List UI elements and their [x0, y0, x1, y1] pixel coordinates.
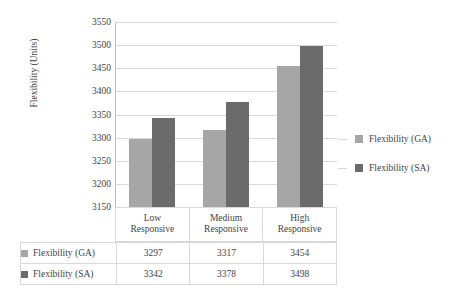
- bar-group: [189, 22, 263, 207]
- category-label-line: Low: [144, 213, 161, 225]
- series-color-swatch-icon: [21, 271, 28, 278]
- flexibility-bar-chart: Flexibility (Units) 35503500345034003350…: [0, 0, 457, 303]
- x-axis-category-label: MediumResponsive: [190, 207, 264, 241]
- data-table: Flexibility (GA)329733173454Flexibility …: [20, 242, 337, 285]
- y-axis-tick-label: 3350: [78, 110, 111, 120]
- table-row: Flexibility (GA)329733173454: [21, 243, 337, 264]
- x-axis-category-label: LowResponsive: [116, 207, 190, 241]
- y-axis-tick-label: 3200: [78, 179, 111, 189]
- bar[interactable]: [203, 130, 226, 207]
- y-axis-title: Flexibility (Units): [29, 0, 43, 153]
- y-axis-tick-label: 3250: [78, 156, 111, 166]
- legend-color-swatch-icon: [355, 135, 363, 143]
- table-value-cell: 3498: [263, 264, 336, 285]
- legend-connector-line: [338, 168, 347, 169]
- y-axis-tick-labels: 355035003450340033503300325032003150: [78, 15, 111, 214]
- y-axis-tick-label: 3400: [78, 86, 111, 96]
- legend-color-swatch-icon: [355, 164, 363, 172]
- table-series-name: Flexibility (SA): [33, 269, 93, 279]
- category-label-line: Responsive: [204, 224, 248, 236]
- table-row: Flexibility (SA)334233783498: [21, 264, 337, 285]
- x-axis-category-band: LowResponsiveMediumResponsiveHighRespons…: [115, 207, 337, 242]
- y-axis-tick-label: 3450: [78, 63, 111, 73]
- table-series-name-cell: Flexibility (SA): [21, 264, 117, 285]
- plot-area: [115, 22, 337, 207]
- bar[interactable]: [277, 66, 300, 207]
- table-series-name: Flexibility (GA): [33, 248, 95, 258]
- legend-label: Flexibility (SA): [369, 163, 429, 173]
- series-color-swatch-icon: [21, 250, 28, 257]
- bar[interactable]: [226, 102, 249, 207]
- bar[interactable]: [300, 46, 323, 207]
- bar[interactable]: [129, 139, 152, 207]
- table-value-cell: 3378: [190, 264, 263, 285]
- y-axis-tick-label: 3300: [78, 133, 111, 143]
- table-value-cell: 3297: [117, 243, 190, 264]
- category-label-line: Responsive: [130, 224, 174, 236]
- bar[interactable]: [152, 118, 175, 207]
- category-label-line: Medium: [210, 213, 242, 225]
- y-axis-tick-label: 3150: [78, 202, 111, 212]
- category-label-line: Responsive: [278, 224, 322, 236]
- bar-group: [115, 22, 189, 207]
- table-series-name-cell: Flexibility (GA): [21, 243, 117, 264]
- y-axis-tick-label: 3550: [78, 17, 111, 27]
- table-value-cell: 3342: [117, 264, 190, 285]
- category-label-line: High: [290, 213, 309, 225]
- table-value-cell: 3317: [190, 243, 263, 264]
- bar-group: [263, 22, 337, 207]
- y-axis-tick-label: 3500: [78, 40, 111, 50]
- x-axis-category-label: HighResponsive: [263, 207, 336, 241]
- legend-entry[interactable]: Flexibility (GA): [355, 133, 455, 145]
- bars-layer: [115, 22, 337, 207]
- legend-entry[interactable]: Flexibility (SA): [355, 162, 455, 174]
- legend-label: Flexibility (GA): [369, 134, 431, 144]
- chart-legend: Flexibility (GA)Flexibility (SA): [355, 133, 455, 191]
- table-value-cell: 3454: [263, 243, 336, 264]
- legend-connector-line: [338, 139, 347, 140]
